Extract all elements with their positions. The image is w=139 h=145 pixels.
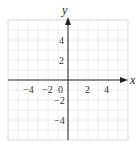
y-axis-arrow-icon	[65, 17, 71, 25]
y-tick-label: −4	[54, 115, 65, 126]
y-tick-label: 4	[59, 35, 64, 46]
x-tick-label: 4	[104, 84, 109, 95]
y-tick-label: 2	[59, 55, 64, 66]
x-tick-label: −2	[42, 84, 53, 95]
y-axis-label: y	[61, 3, 68, 17]
coordinate-plane: x y −4 −2 0 2 4 4 2 −2 −4	[0, 0, 139, 145]
x-axis-arrow-icon	[120, 77, 128, 83]
x-axis-label: x	[129, 73, 136, 87]
origin-label: 0	[58, 84, 63, 95]
x-tick-label: 2	[85, 84, 90, 95]
y-tick-label: −2	[54, 95, 65, 106]
x-tick-label: −4	[23, 84, 34, 95]
